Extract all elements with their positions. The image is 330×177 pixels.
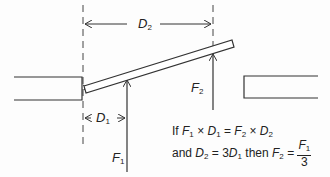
- f2-label: F2: [191, 80, 203, 96]
- fraction-f1-over-3: F13: [297, 139, 311, 168]
- left-support-block: [14, 77, 82, 100]
- d1-label: D1: [96, 110, 110, 126]
- lever-beam: [84, 40, 234, 93]
- formula-line-2: and D2 = 3D1 then F2 = F13: [172, 139, 311, 168]
- right-support-block: [244, 76, 318, 98]
- d2-label: D2: [138, 16, 152, 32]
- lever-diagram: D2 D1 F1 F2 If F1 × D1 = F2 × D2 and D2 …: [0, 0, 330, 177]
- f1-label: F1: [112, 150, 124, 166]
